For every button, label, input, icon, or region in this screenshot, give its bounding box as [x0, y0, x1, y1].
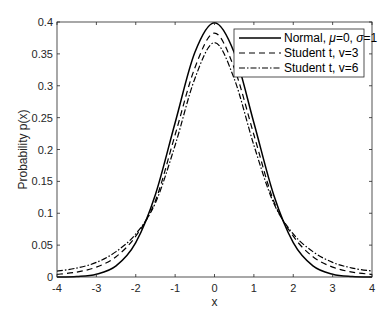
legend-label-t6: Student t, v=6 [284, 61, 359, 75]
y-tick-label: 0.3 [38, 80, 53, 92]
x-tick-label: 4 [369, 282, 375, 294]
x-tick-label: 3 [330, 282, 336, 294]
x-tick-label: -2 [131, 282, 141, 294]
x-axis-label: x [212, 295, 218, 309]
chart: -4-3-2-10123400.050.10.150.20.250.30.350… [0, 0, 392, 321]
y-tick-label: 0.25 [32, 112, 53, 124]
y-tick-label: 0 [47, 271, 53, 283]
legend-label-t3: Student t, v=3 [284, 46, 359, 60]
legend: Normal, μ=0, σ=1 Student t, v=3 Student … [234, 29, 378, 77]
x-tick-label: 1 [251, 282, 257, 294]
y-tick-label: 0.05 [32, 239, 53, 251]
x-tick-label: -3 [91, 282, 101, 294]
y-tick-label: 0.15 [32, 175, 53, 187]
x-tick-label: 2 [290, 282, 296, 294]
y-axis-label: Probability p(x) [16, 109, 30, 189]
legend-label-normal: Normal, μ=0, σ=1 [284, 31, 378, 45]
y-tick-label: 0.2 [38, 144, 53, 156]
y-tick-label: 0.4 [38, 16, 53, 28]
x-tick-label: 0 [211, 282, 217, 294]
x-tick-label: -4 [52, 282, 62, 294]
y-tick-label: 0.35 [32, 48, 53, 60]
x-tick-label: -1 [170, 282, 180, 294]
y-tick-label: 0.1 [38, 207, 53, 219]
